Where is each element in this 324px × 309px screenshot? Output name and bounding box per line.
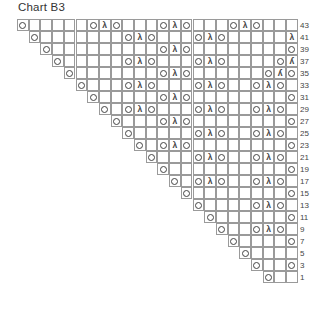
- chart-cell: [263, 91, 275, 103]
- yarn-over-icon: [274, 223, 286, 235]
- yarn-over-icon: [274, 55, 286, 67]
- yarn-over-icon: [181, 19, 193, 31]
- chart-cell: [228, 91, 240, 103]
- chart-cell: [274, 91, 286, 103]
- chart-cell: [193, 139, 205, 151]
- chart-cell: [111, 103, 123, 115]
- right-decrease-icon: ʎ: [286, 55, 298, 67]
- chart-cell: [251, 55, 263, 67]
- chart-cell: [193, 19, 205, 31]
- chart-cell: [251, 211, 263, 223]
- chart-cell: [228, 127, 240, 139]
- chart-cell: [251, 235, 263, 247]
- chart-cell: [204, 43, 216, 55]
- yarn-over-icon: [146, 103, 158, 115]
- chart-cell: [111, 43, 123, 55]
- chart-cell: [157, 55, 169, 67]
- chart-cell: [239, 163, 251, 175]
- yarn-over-icon: [169, 175, 181, 187]
- yarn-over-icon: [286, 67, 298, 79]
- yarn-over-icon: [181, 115, 193, 127]
- chart-cell: [274, 139, 286, 151]
- row-number-label: 1: [300, 273, 304, 282]
- yarn-over-icon: [122, 31, 134, 43]
- yarn-over-icon: [286, 43, 298, 55]
- chart-cell: [169, 55, 181, 67]
- chart-cell: [52, 43, 64, 55]
- chart-cell: [146, 19, 158, 31]
- chart-cell: [263, 163, 275, 175]
- chart-cell: [146, 115, 158, 127]
- yarn-over-icon: [64, 67, 76, 79]
- chart-cell: [239, 43, 251, 55]
- chart-cell: [228, 163, 240, 175]
- yarn-over-icon: [274, 151, 286, 163]
- chart-cell: [76, 43, 88, 55]
- chart-cell: [134, 91, 146, 103]
- yarn-over-icon: [193, 79, 205, 91]
- yarn-over-icon: [146, 31, 158, 43]
- chart-cell: [263, 259, 275, 271]
- chart-cell: [286, 223, 298, 235]
- centered-decrease-icon: λ: [204, 151, 216, 163]
- chart-cell: [64, 55, 76, 67]
- yarn-over-icon: [87, 19, 99, 31]
- centered-decrease-icon: λ: [169, 139, 181, 151]
- yarn-over-icon: [286, 235, 298, 247]
- yarn-over-icon: [274, 175, 286, 187]
- chart-cell: [251, 139, 263, 151]
- knitting-chart-grid: λλλλλλλλλʎλʎλλλλλλλλλλλλλλλλλ: [17, 19, 298, 283]
- chart-cell: [99, 67, 111, 79]
- row-number-label: 21: [300, 153, 309, 162]
- centered-decrease-icon: λ: [169, 19, 181, 31]
- yarn-over-icon: [251, 19, 263, 31]
- centered-decrease-icon: λ: [134, 31, 146, 43]
- row-number-label: 9: [300, 225, 304, 234]
- chart-cell: [169, 163, 181, 175]
- chart-cell: [122, 91, 134, 103]
- chart-cell: [216, 199, 228, 211]
- chart-cell: [239, 235, 251, 247]
- chart-cell: [239, 103, 251, 115]
- yarn-over-icon: [286, 187, 298, 199]
- row-number-label: 25: [300, 129, 309, 138]
- yarn-over-icon: [99, 103, 111, 115]
- chart-cell: [146, 127, 158, 139]
- chart-cell: [193, 91, 205, 103]
- chart-cell: [286, 103, 298, 115]
- chart-cell: [99, 43, 111, 55]
- yarn-over-icon: [181, 67, 193, 79]
- yarn-over-icon: [122, 79, 134, 91]
- row-number-label: 23: [300, 141, 309, 150]
- centered-decrease-icon: λ: [169, 43, 181, 55]
- chart-cell: [239, 79, 251, 91]
- yarn-over-icon: [146, 55, 158, 67]
- chart-cell: [216, 187, 228, 199]
- chart-cell: [228, 43, 240, 55]
- centered-decrease-icon: λ: [169, 67, 181, 79]
- chart-cell: [228, 115, 240, 127]
- row-number-label: 13: [300, 201, 309, 210]
- chart-cell: [216, 115, 228, 127]
- yarn-over-icon: [216, 31, 228, 43]
- chart-cell: [122, 67, 134, 79]
- yarn-over-icon: [216, 127, 228, 139]
- yarn-over-icon: [274, 79, 286, 91]
- centered-decrease-icon: λ: [204, 175, 216, 187]
- chart-cell: [239, 115, 251, 127]
- yarn-over-icon: [157, 91, 169, 103]
- chart-cell: [76, 67, 88, 79]
- chart-cell: [146, 43, 158, 55]
- chart-cell: [239, 139, 251, 151]
- yarn-over-icon: [193, 103, 205, 115]
- row-number-label: 17: [300, 177, 309, 186]
- chart-cell: [99, 91, 111, 103]
- yarn-over-icon: [157, 163, 169, 175]
- yarn-over-icon: [134, 139, 146, 151]
- chart-cell: [134, 43, 146, 55]
- chart-cell: [64, 31, 76, 43]
- chart-cell: [134, 19, 146, 31]
- centered-decrease-icon: λ: [204, 127, 216, 139]
- centered-decrease-icon: λ: [263, 103, 275, 115]
- chart-cell: [204, 91, 216, 103]
